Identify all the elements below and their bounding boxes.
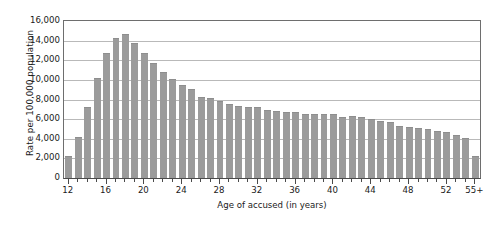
bar xyxy=(321,114,328,178)
bar xyxy=(283,112,290,178)
bar xyxy=(434,131,441,178)
y-axis-tick-labels: 02,0004,0006,0008,00010,00012,00014,0001… xyxy=(14,14,60,182)
x-axis-tick-marks xyxy=(63,178,481,184)
bar xyxy=(179,85,186,178)
bar xyxy=(122,34,129,178)
x-axis-tick-mark xyxy=(332,178,333,184)
bar xyxy=(396,126,403,178)
x-axis-tick-mark xyxy=(285,178,286,182)
x-axis-tick-mark xyxy=(342,178,343,182)
x-axis-tick-mark xyxy=(228,178,229,182)
x-axis-tick-labels: 121620242832364044485255+ xyxy=(63,185,481,199)
bar xyxy=(387,122,394,178)
bar xyxy=(330,114,337,178)
x-axis-tick-mark xyxy=(314,178,315,182)
plot-area xyxy=(63,20,481,179)
x-axis-tick-label: 40 xyxy=(327,185,338,195)
bar xyxy=(207,98,214,178)
x-axis-tick-mark xyxy=(427,178,428,182)
bar xyxy=(443,132,450,178)
y-axis-tick-label: 10,000 xyxy=(14,74,60,84)
x-axis-tick-mark xyxy=(436,178,437,182)
bar xyxy=(235,106,242,178)
x-axis-tick-mark xyxy=(351,178,352,182)
x-axis-tick-label: 24 xyxy=(176,185,187,195)
x-axis-title: Age of accused (in years) xyxy=(63,200,481,210)
y-axis-tick-label: 2,000 xyxy=(14,152,60,162)
bar xyxy=(358,117,365,178)
x-axis-tick-mark xyxy=(134,178,135,182)
x-axis-tick-mark xyxy=(106,178,107,184)
x-axis-tick-mark xyxy=(295,178,296,184)
bar xyxy=(254,107,261,178)
x-axis-tick-mark xyxy=(153,178,154,182)
bar xyxy=(377,121,384,178)
x-axis-tick-mark xyxy=(124,178,125,182)
x-axis-tick-mark xyxy=(474,178,475,184)
x-axis-tick-mark xyxy=(143,178,144,184)
y-axis-tick-label: 16,000 xyxy=(14,15,60,25)
x-axis-tick-mark xyxy=(408,178,409,184)
bar xyxy=(453,135,460,178)
bar xyxy=(150,63,157,178)
bar xyxy=(302,114,309,178)
x-axis-tick-mark xyxy=(323,178,324,182)
x-axis-tick-mark xyxy=(446,178,447,184)
x-axis-tick-mark xyxy=(87,178,88,182)
x-axis-tick-label: 16 xyxy=(100,185,111,195)
x-axis-tick-mark xyxy=(210,178,211,182)
bar-series xyxy=(64,21,480,178)
y-axis-tick-label: 8,000 xyxy=(14,94,60,104)
x-axis-tick-mark xyxy=(68,178,69,184)
bar xyxy=(406,127,413,178)
x-axis-tick-mark xyxy=(162,178,163,182)
x-axis-tick-mark xyxy=(181,178,182,184)
x-axis-tick-label: 52 xyxy=(440,185,451,195)
x-axis-tick-mark xyxy=(77,178,78,182)
x-axis-tick-label: 32 xyxy=(251,185,262,195)
x-axis-tick-mark xyxy=(361,178,362,182)
x-axis-tick-label: 36 xyxy=(289,185,300,195)
x-axis-tick-mark xyxy=(455,178,456,182)
x-axis-tick-mark xyxy=(380,178,381,182)
bar xyxy=(113,38,120,178)
x-axis-tick-mark xyxy=(465,178,466,182)
bar xyxy=(349,116,356,178)
x-axis-tick-mark xyxy=(238,178,239,182)
bar xyxy=(415,128,422,178)
x-axis-tick-label: 55+ xyxy=(465,185,483,195)
bar xyxy=(226,104,233,178)
x-axis-tick-mark xyxy=(96,178,97,182)
bar xyxy=(65,156,72,178)
x-axis-tick-mark xyxy=(172,178,173,182)
x-axis-tick-mark xyxy=(304,178,305,182)
bar xyxy=(75,137,82,178)
x-axis-tick-label: 12 xyxy=(62,185,73,195)
bar xyxy=(245,107,252,178)
x-axis-tick-label: 20 xyxy=(138,185,149,195)
bar xyxy=(131,43,138,178)
bar xyxy=(264,110,271,178)
bar xyxy=(94,78,101,178)
bar xyxy=(339,117,346,178)
bar xyxy=(84,107,91,178)
bar xyxy=(188,89,195,178)
y-axis-tick-label: 6,000 xyxy=(14,113,60,123)
y-axis-tick-label: 4,000 xyxy=(14,133,60,143)
x-axis-tick-mark xyxy=(266,178,267,182)
x-axis-tick-mark xyxy=(191,178,192,182)
x-axis-tick-label: 28 xyxy=(214,185,225,195)
y-axis-tick-label: 12,000 xyxy=(14,54,60,64)
x-axis-tick-mark xyxy=(370,178,371,184)
y-axis-tick-label: 14,000 xyxy=(14,35,60,45)
x-axis-tick-mark xyxy=(200,178,201,182)
x-axis-tick-label: 48 xyxy=(403,185,414,195)
x-axis-tick-mark xyxy=(399,178,400,182)
x-axis-tick-mark xyxy=(418,178,419,182)
bar xyxy=(141,53,148,178)
bar xyxy=(273,111,280,178)
bar xyxy=(472,156,479,178)
x-axis-tick-mark xyxy=(389,178,390,182)
x-axis-tick-label: 44 xyxy=(365,185,376,195)
bar xyxy=(198,97,205,178)
